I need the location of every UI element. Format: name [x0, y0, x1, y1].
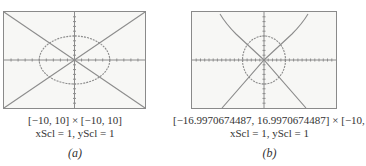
figure-label-a: (a)	[0, 146, 150, 161]
graph-plot-b	[192, 12, 336, 108]
panel-a: [−10, 10] × [−10, 10] xScl = 1, yScl = 1…	[0, 0, 150, 166]
panel-b: [−16.9970674487, 16.9970674487] × [−10, …	[173, 0, 366, 166]
window-range-a: [−10, 10] × [−10, 10]	[0, 114, 150, 127]
graph-plot-a	[4, 12, 145, 108]
figure-label-b: (b)	[173, 146, 366, 161]
scale-a: xScl = 1, yScl = 1	[0, 127, 150, 140]
graph-window-a	[3, 11, 146, 109]
window-range-b: [−16.9970674487, 16.9970674487] × [−10, …	[173, 114, 366, 127]
scale-b: xScl = 1, yScl = 1	[173, 127, 366, 140]
graph-window-b	[191, 11, 337, 109]
